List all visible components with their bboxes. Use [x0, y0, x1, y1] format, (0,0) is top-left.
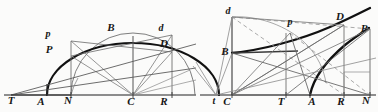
label-right-t-lower: t [213, 95, 217, 106]
chord-B-to-t [216, 53, 232, 95]
conic-construction-svg: T A N C R p P B d D [0, 0, 378, 112]
label-right-B: B [220, 45, 228, 57]
label-right-T: T [278, 95, 286, 107]
label-left-B: B [106, 21, 114, 33]
left-figure-ellipse: T A N C R p P B d D [4, 21, 219, 107]
label-left-R: R [159, 95, 167, 107]
label-right-A: A [307, 95, 315, 107]
label-right-P: P [361, 22, 368, 34]
label-right-N: N [361, 94, 371, 106]
label-right-D: D [335, 10, 344, 22]
label-left-p-lower: p [45, 28, 51, 39]
label-right-C: C [223, 95, 231, 107]
label-right-d-lower: d [226, 5, 232, 16]
label-left-P: P [46, 43, 53, 55]
label-left-A: A [36, 95, 44, 107]
radius-C-to-p [71, 41, 133, 95]
conjugate-hyperbola-curve [232, 8, 370, 53]
label-left-D: D [159, 37, 168, 49]
figure-plate: T A N C R p P B d D [0, 0, 378, 112]
spoke-C-to-ellipse-right [133, 80, 196, 95]
label-left-d-lower: d [159, 22, 165, 33]
label-left-T: T [8, 94, 16, 106]
label-left-C: C [127, 95, 135, 107]
tangent-through-P [11, 68, 196, 95]
label-right-p-lower: p [287, 16, 293, 27]
segment-t-to-left-2 [193, 66, 216, 95]
radius-C-to-D [133, 52, 172, 95]
chord-B-to-N [232, 53, 370, 95]
chord-p-to-A [290, 33, 310, 95]
label-left-N: N [63, 94, 73, 106]
right-figure-hyperbola: t C T A R N d B p D P [193, 5, 376, 107]
label-right-R: R [336, 95, 344, 107]
